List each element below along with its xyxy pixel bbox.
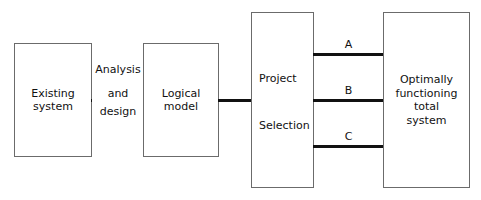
box-total-system-line-4: system	[407, 114, 447, 128]
box-project-selection-line-1: Project	[252, 72, 297, 86]
box-total-system-line-1: Optimally	[400, 73, 453, 87]
process-flow-diagram: Existing system Analysis and design Logi…	[0, 0, 481, 200]
edge-label-option-a: A	[314, 38, 383, 52]
edge-label-option-b: B	[314, 84, 383, 98]
box-logical-model: Logical model	[143, 43, 219, 157]
connector-option-c	[313, 145, 384, 148]
connector-option-b	[313, 99, 384, 102]
box-existing-system-line-2: system	[33, 100, 73, 114]
edge-label-analysis: Analysis	[92, 63, 144, 82]
edge-label-and: and	[92, 82, 144, 101]
box-logical-model-line-1: Logical	[162, 87, 201, 101]
edge-label-analysis-and-design: Analysis and design	[92, 63, 144, 119]
connector-logical-to-project-selection	[218, 99, 252, 102]
box-existing-system-line-1: Existing	[31, 87, 75, 101]
box-optimally-functioning-total-system: Optimally functioning total system	[383, 12, 470, 188]
connector-option-a	[313, 53, 384, 56]
box-total-system-line-3: total	[414, 100, 439, 114]
box-project-selection-line-2: Selection	[252, 119, 310, 133]
box-existing-system: Existing system	[14, 43, 92, 157]
edge-label-design: design	[92, 100, 144, 119]
box-project-selection: Project Selection	[251, 12, 314, 188]
box-logical-model-line-2: model	[164, 100, 198, 114]
edge-label-option-c: C	[314, 130, 383, 144]
box-total-system-line-2: functioning	[396, 87, 458, 101]
